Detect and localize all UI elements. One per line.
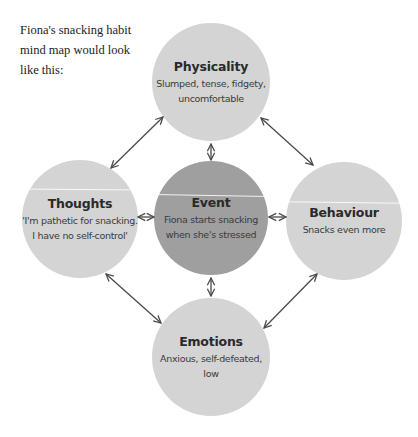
arrow-emotions-behaviour <box>264 274 317 328</box>
arrow-thoughts-emotions <box>106 274 161 323</box>
connector-arrows <box>0 0 418 437</box>
arrow-thoughts-physicality <box>111 117 163 168</box>
arrow-physicality-behaviour <box>261 118 313 165</box>
